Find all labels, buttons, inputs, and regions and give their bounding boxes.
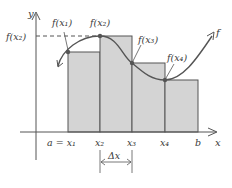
rect-1 (68, 52, 100, 132)
tick-x3: x₃ (127, 137, 136, 148)
point-x1 (66, 50, 70, 54)
point-x3 (130, 61, 134, 65)
tick-x4: x₄ (160, 137, 169, 148)
riemann-sum-diagram: y x f(x₂) f(x₁) f(x₂) f(x₃) f(x₄) f a = … (0, 0, 232, 188)
rectangles (68, 36, 198, 132)
rect-2 (100, 36, 132, 132)
x-axis-label: x (215, 137, 221, 148)
delta-x-label: Δx (107, 150, 121, 161)
point-x2 (98, 34, 102, 38)
rect-4 (165, 80, 198, 132)
f-x1-label: f(x₁) (51, 17, 72, 28)
f-x2-axis-label: f(x₂) (5, 31, 26, 42)
f-x4-label: f(x₄) (166, 52, 187, 63)
f-x3-label: f(x₃) (137, 34, 158, 45)
curve-label: f (215, 27, 222, 38)
tick-a-x1: a = x₁ (47, 137, 76, 148)
point-x4 (163, 78, 167, 82)
tick-x2: x₂ (95, 137, 104, 148)
tick-b: b (195, 137, 201, 148)
y-axis-label: y (27, 8, 34, 19)
f-x2-label: f(x₂) (89, 17, 110, 28)
rect-3 (132, 63, 165, 132)
